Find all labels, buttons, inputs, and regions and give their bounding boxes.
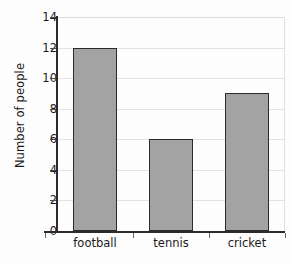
x-tick-mark xyxy=(285,233,286,238)
plot-area xyxy=(57,17,285,231)
x-axis-line xyxy=(44,231,285,233)
x-tick-label-cricket: cricket xyxy=(228,236,266,250)
x-tick-label-tennis: tennis xyxy=(153,236,188,250)
x-tick-mark xyxy=(209,233,210,238)
bar-chart: Number of people 02468101214 footballten… xyxy=(0,0,292,263)
bar-football xyxy=(73,48,117,231)
y-axis-line xyxy=(56,16,58,232)
gridline xyxy=(57,17,284,18)
x-tick-label-football: football xyxy=(73,236,116,250)
x-tick-mark xyxy=(45,233,46,238)
y-axis-ticks: 02468101214 xyxy=(0,0,57,263)
bar-tennis xyxy=(149,139,193,231)
bar-cricket xyxy=(225,93,269,231)
x-tick-mark xyxy=(133,233,134,238)
